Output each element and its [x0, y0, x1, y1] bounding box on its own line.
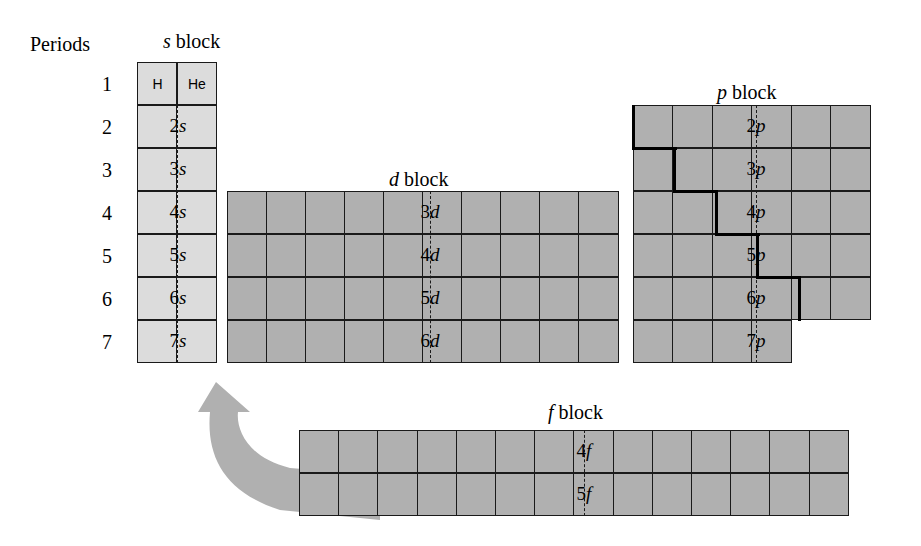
period-number-1: 1 — [88, 74, 112, 94]
d-block-cell[interactable] — [539, 191, 580, 234]
staircase-segment — [632, 105, 635, 150]
s-block-cell-he-label: He — [177, 75, 216, 93]
d-block-cell[interactable] — [578, 320, 619, 363]
p-block-cell[interactable] — [830, 148, 871, 191]
p-block-cell[interactable] — [672, 234, 713, 277]
f-block-cell[interactable] — [769, 473, 810, 516]
f-block-cell[interactable] — [377, 430, 418, 473]
p-block-cell[interactable] — [672, 148, 713, 191]
staircase-segment — [798, 276, 801, 321]
p-block-cell[interactable] — [633, 105, 674, 148]
d-block-cell[interactable] — [539, 320, 580, 363]
s-block-label-3s: 3s — [137, 159, 219, 179]
p-block-cell[interactable] — [672, 105, 713, 148]
d-block-cell[interactable] — [500, 320, 541, 363]
d-block-cell[interactable] — [539, 277, 580, 320]
d-block-cell[interactable] — [305, 234, 346, 277]
f-block-cell[interactable] — [495, 473, 536, 516]
f-block-cell[interactable] — [769, 430, 810, 473]
p-block-label-3p: 3p — [715, 159, 797, 179]
f-block-cell[interactable] — [691, 430, 732, 473]
d-block-cell[interactable] — [344, 320, 385, 363]
d-block-cell[interactable] — [500, 277, 541, 320]
s-block-title-word: block — [171, 30, 220, 52]
f-block-cell[interactable] — [809, 430, 850, 473]
f-block-cell[interactable] — [377, 473, 418, 516]
p-block-cell[interactable] — [672, 320, 713, 363]
f-block-cell[interactable] — [417, 430, 458, 473]
p-block-cell[interactable] — [672, 191, 713, 234]
d-block-label-6d: 6d — [389, 331, 471, 351]
f-block-cell[interactable] — [652, 473, 693, 516]
d-block-cell[interactable] — [578, 234, 619, 277]
p-block-cell[interactable] — [830, 191, 871, 234]
d-block-cell[interactable] — [305, 320, 346, 363]
f-block-title-word: block — [554, 401, 603, 423]
p-block-label-2p: 2p — [715, 116, 797, 136]
p-block-cell[interactable] — [830, 234, 871, 277]
f-block-cell[interactable] — [417, 473, 458, 516]
staircase-segment — [632, 147, 677, 150]
d-block-cell[interactable] — [344, 277, 385, 320]
d-block-label-3d: 3d — [389, 202, 471, 222]
f-block-cell[interactable] — [691, 473, 732, 516]
f-block-cell[interactable] — [338, 473, 379, 516]
period-number-6: 6 — [88, 289, 112, 309]
d-block-cell[interactable] — [305, 277, 346, 320]
f-block-cell[interactable] — [495, 430, 536, 473]
f-block-cell[interactable] — [809, 473, 850, 516]
d-block-cell[interactable] — [227, 277, 268, 320]
d-block-cell[interactable] — [578, 277, 619, 320]
p-block-title-letter: p — [717, 81, 727, 103]
d-block-cell[interactable] — [266, 277, 307, 320]
p-block-cell[interactable] — [633, 234, 674, 277]
f-block-cell[interactable] — [299, 473, 340, 516]
d-block-cell[interactable] — [344, 191, 385, 234]
p-block-cell[interactable] — [830, 105, 871, 148]
p-block-label-4p: 4p — [715, 202, 797, 222]
d-block-cell[interactable] — [500, 234, 541, 277]
f-block-cell[interactable] — [338, 430, 379, 473]
d-block-cell[interactable] — [500, 191, 541, 234]
s-block-cell-h-label: H — [138, 75, 177, 93]
p-block-cell[interactable] — [633, 320, 674, 363]
d-block-cell[interactable] — [305, 191, 346, 234]
period-number-4: 4 — [88, 203, 112, 223]
s-block-cell-he[interactable]: He — [176, 62, 217, 105]
d-block-cell[interactable] — [227, 320, 268, 363]
p-block-label-6p: 6p — [715, 288, 797, 308]
d-block-title-letter: d — [389, 168, 399, 190]
d-block-cell[interactable] — [266, 234, 307, 277]
d-block-label-4d: 4d — [389, 245, 471, 265]
d-block-label-5d: 5d — [389, 288, 471, 308]
s-block-label-5s: 5s — [137, 245, 219, 265]
p-block-cell[interactable] — [633, 148, 674, 191]
f-block-cell[interactable] — [299, 430, 340, 473]
d-block-cell[interactable] — [539, 234, 580, 277]
f-block-label-4f: 4f — [543, 441, 625, 461]
d-block-cell[interactable] — [344, 234, 385, 277]
d-block-cell[interactable] — [227, 234, 268, 277]
d-block-cell[interactable] — [578, 191, 619, 234]
f-block-cell[interactable] — [730, 430, 771, 473]
staircase-segment — [756, 233, 759, 278]
s-block-label-7s: 7s — [137, 331, 219, 351]
period-number-3: 3 — [88, 160, 112, 180]
f-block-cell[interactable] — [456, 473, 497, 516]
p-block-cell[interactable] — [633, 191, 674, 234]
p-block-cell[interactable] — [672, 277, 713, 320]
f-block-title: f block — [548, 401, 603, 423]
staircase-segment — [673, 147, 676, 192]
d-block-cell[interactable] — [266, 191, 307, 234]
period-number-5: 5 — [88, 246, 112, 266]
p-block-cell[interactable] — [633, 277, 674, 320]
s-block-cell-h[interactable]: H — [137, 62, 178, 105]
d-block-cell[interactable] — [266, 320, 307, 363]
f-block-cell[interactable] — [652, 430, 693, 473]
f-block-cell[interactable] — [730, 473, 771, 516]
d-block-cell[interactable] — [227, 191, 268, 234]
p-block-cell[interactable] — [830, 277, 871, 320]
s-block-title-letter: s — [163, 30, 171, 52]
f-block-cell[interactable] — [456, 430, 497, 473]
period-number-2: 2 — [88, 117, 112, 137]
